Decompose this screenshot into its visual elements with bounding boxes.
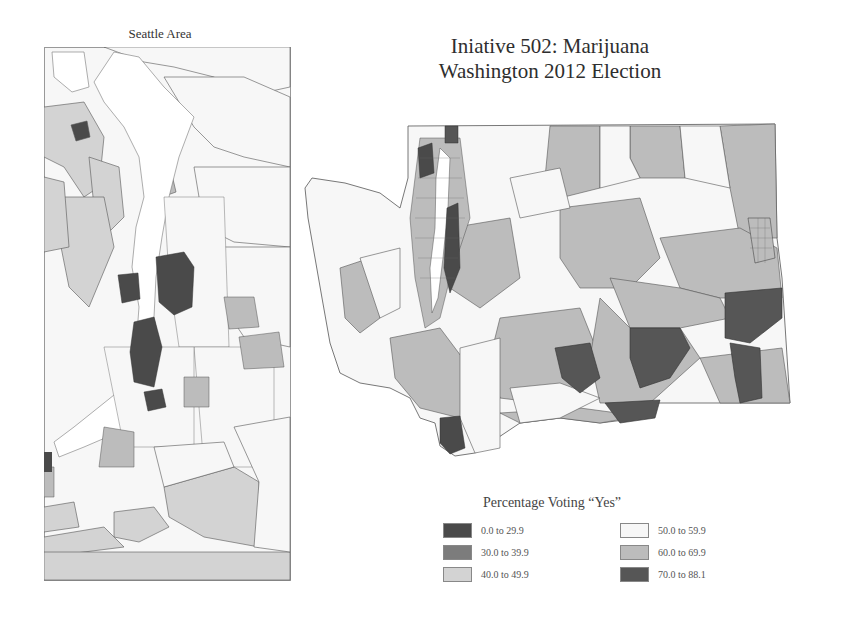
legend-swatch	[443, 545, 472, 560]
legend-label: 70.0 to 88.1	[658, 569, 706, 580]
map-legend: Percentage Voting “Yes” 0.0 to 29.9 30.0…	[443, 495, 783, 595]
seattle-inset-svg	[44, 47, 291, 581]
legend-item-30-39: 30.0 to 39.9	[443, 543, 529, 561]
legend-item-0-29: 0.0 to 29.9	[443, 521, 524, 539]
map-title-line1: Iniative 502: Marijuana	[420, 34, 680, 59]
legend-item-60-69: 60.0 to 69.9	[620, 543, 706, 561]
seattle-inset-map	[44, 47, 291, 581]
legend-item-40-49: 40.0 to 49.9	[443, 565, 529, 583]
washington-state-svg	[300, 118, 800, 468]
map-title-line2: Washington 2012 Election	[420, 59, 680, 84]
legend-title: Percentage Voting “Yes”	[483, 495, 621, 511]
inset-title: Seattle Area	[110, 26, 210, 42]
legend-label: 50.0 to 59.9	[658, 525, 706, 536]
legend-swatch	[443, 523, 472, 538]
legend-swatch	[620, 567, 649, 582]
legend-label: 0.0 to 29.9	[481, 525, 524, 536]
washington-state-map	[300, 118, 800, 468]
legend-item-50-59: 50.0 to 59.9	[620, 521, 706, 539]
map-title: Iniative 502: Marijuana Washington 2012 …	[420, 34, 680, 84]
legend-label: 60.0 to 69.9	[658, 547, 706, 558]
legend-label: 40.0 to 49.9	[481, 569, 529, 580]
legend-swatch	[443, 567, 472, 582]
legend-item-70-88: 70.0 to 88.1	[620, 565, 706, 583]
legend-label: 30.0 to 39.9	[481, 547, 529, 558]
legend-swatch	[620, 545, 649, 560]
legend-swatch	[620, 523, 649, 538]
